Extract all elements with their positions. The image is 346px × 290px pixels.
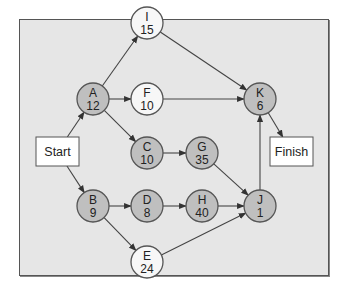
node-d: D8 bbox=[131, 190, 163, 222]
node-id-label: B bbox=[89, 193, 97, 207]
finish-box: Finish bbox=[270, 137, 313, 166]
node-duration-label: 9 bbox=[90, 206, 97, 220]
node-a: A12 bbox=[77, 83, 109, 115]
node-id-label: F bbox=[143, 86, 150, 100]
node-duration-label: 24 bbox=[140, 262, 154, 276]
node-j: J1 bbox=[244, 190, 276, 222]
edge-k-to-finish bbox=[268, 113, 283, 137]
finish-label: Finish bbox=[275, 145, 308, 159]
node-id-label: K bbox=[256, 86, 264, 100]
boxes-layer: Start Finish bbox=[36, 137, 313, 166]
node-h: H40 bbox=[186, 190, 218, 222]
node-f: F10 bbox=[131, 83, 163, 115]
node-duration-label: 12 bbox=[86, 99, 100, 113]
node-id-label: D bbox=[143, 193, 152, 207]
node-duration-label: 35 bbox=[195, 153, 209, 167]
edge-a-to-c bbox=[104, 110, 135, 141]
node-b: B9 bbox=[77, 190, 109, 222]
edge-g-to-j bbox=[214, 164, 248, 195]
node-id-label: G bbox=[197, 140, 206, 154]
start-box: Start bbox=[36, 137, 79, 166]
node-id-label: E bbox=[143, 249, 151, 263]
node-id-label: A bbox=[89, 86, 97, 100]
edge-start-to-a bbox=[67, 112, 84, 137]
node-c: C10 bbox=[131, 137, 163, 169]
node-id-label: H bbox=[198, 193, 207, 207]
node-duration-label: 40 bbox=[195, 206, 209, 220]
nodes-layer: A12I15F10K6C10G35B9D8H40J1E24 bbox=[77, 7, 276, 278]
edge-start-to-b bbox=[67, 166, 84, 193]
node-duration-label: 6 bbox=[257, 99, 264, 113]
node-id-label: C bbox=[143, 140, 152, 154]
node-id-label: I bbox=[145, 10, 148, 24]
edge-i-to-k bbox=[160, 32, 246, 90]
network-diagram: A12I15F10K6C10G35B9D8H40J1E24 Start Fini… bbox=[0, 0, 346, 290]
edge-a-to-i bbox=[102, 36, 137, 86]
node-duration-label: 1 bbox=[257, 206, 264, 220]
node-i: I15 bbox=[131, 7, 163, 39]
node-k: K6 bbox=[244, 83, 276, 115]
node-id-label: J bbox=[257, 193, 263, 207]
start-label: Start bbox=[44, 145, 71, 159]
edges-layer bbox=[67, 32, 283, 255]
node-e: E24 bbox=[131, 246, 163, 278]
edge-b-to-e bbox=[104, 218, 136, 251]
node-duration-label: 10 bbox=[140, 153, 154, 167]
node-duration-label: 10 bbox=[140, 99, 154, 113]
node-duration-label: 8 bbox=[144, 206, 151, 220]
node-g: G35 bbox=[186, 137, 218, 169]
node-duration-label: 15 bbox=[140, 23, 154, 37]
